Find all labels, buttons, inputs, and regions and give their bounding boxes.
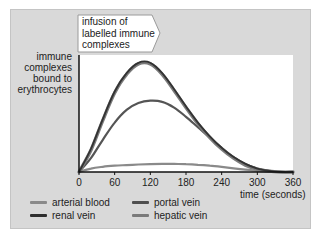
y-axis-label: immune complexes bound to erythrocytes	[2, 51, 72, 95]
x-tick-label: 0	[76, 177, 82, 188]
y-axis-label-line: erythrocytes	[2, 84, 72, 95]
legend-label: hepatic vein	[154, 210, 207, 221]
x-tick-label: 240	[213, 177, 230, 188]
legend-item-arterial-blood: arterial blood	[30, 197, 110, 208]
x-tick-label: 60	[109, 177, 120, 188]
infusion-callout: infusion of labelled immune complexes	[82, 16, 155, 51]
x-tick-label: 180	[178, 177, 195, 188]
callout-line: labelled immune	[82, 28, 155, 40]
legend-swatch	[30, 201, 47, 204]
x-tick-label: 360	[285, 177, 302, 188]
x-tick-label: 300	[249, 177, 266, 188]
callout-line: complexes	[82, 39, 155, 51]
legend-item-hepatic-vein: hepatic vein	[132, 210, 207, 221]
legend-swatch	[30, 214, 47, 217]
legend-item-portal-vein: portal vein	[132, 197, 200, 208]
y-axis-label-line: bound to	[2, 73, 72, 84]
legend-label: portal vein	[154, 197, 200, 208]
y-axis-label-line: complexes	[2, 62, 72, 73]
legend-swatch	[132, 214, 149, 217]
series-lines	[79, 61, 293, 172]
legend-item-renal-vein: renal vein	[30, 210, 95, 221]
x-axis-label: time (seconds)	[240, 189, 306, 200]
callout-line: infusion of	[82, 16, 155, 28]
y-axis-label-line: immune	[2, 51, 72, 62]
figure: infusion of labelled immune complexes im…	[0, 0, 317, 239]
legend-swatch	[132, 201, 149, 204]
legend-label: renal vein	[52, 210, 95, 221]
series-line-portal-vein	[79, 101, 293, 172]
x-tick-label: 120	[142, 177, 159, 188]
legend-label: arterial blood	[52, 197, 110, 208]
